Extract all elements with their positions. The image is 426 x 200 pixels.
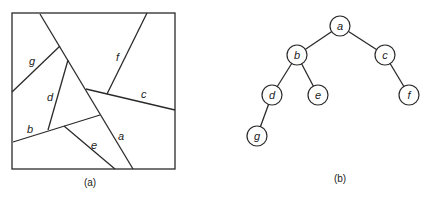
segment-e [64,126,115,169]
tree-node-d: d [262,85,282,105]
tree-node-label: g [254,130,261,142]
segment-label-f: f [116,51,120,63]
tree-node-g: g [247,126,267,146]
tree-node-label: b [294,49,300,61]
segment-c [86,89,175,110]
segment-label-a: a [118,130,124,142]
caption-b: (b) [334,173,346,184]
segment-label-g: g [29,55,36,67]
panel-b: abcdefg (b) [247,16,419,184]
tree-node-a: a [330,16,350,36]
segment-label-d: d [47,91,54,103]
tree-node-f: f [399,85,419,105]
figure-canvas: a b c d e f g (a) abcdefg (b) [0,0,426,200]
tree-node-label: c [382,49,388,61]
tree-edges [257,26,409,136]
tree-nodes: abcdefg [247,16,419,146]
tree-node-c: c [375,45,395,65]
tree-node-label: d [269,89,276,101]
segment-label-c: c [141,88,147,100]
segment-label-e: e [91,139,97,151]
segment-g [12,46,60,92]
segment-f [107,13,147,94]
panel-a: a b c d e f g (a) [12,13,175,188]
tree-node-b: b [287,45,307,65]
segment-label-b: b [27,123,33,135]
tree-node-label: a [337,20,343,32]
caption-a: (a) [84,177,96,188]
tree-node-label: e [315,89,321,101]
tree-node-e: e [308,85,328,105]
